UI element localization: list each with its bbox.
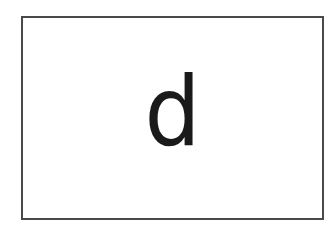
letter-glyph: d <box>144 64 200 160</box>
letter-display: d <box>23 18 322 218</box>
letter-card: d <box>21 16 324 220</box>
